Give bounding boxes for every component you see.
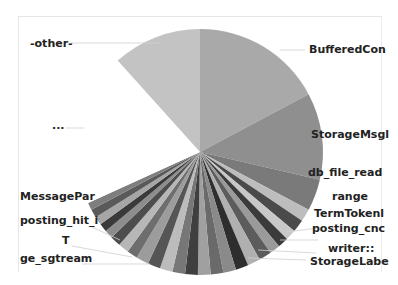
- label-termtokenl: TermTokenl: [314, 207, 384, 220]
- label-messagepar: MessagePar: [20, 190, 95, 203]
- label-ellipsis: ...: [52, 119, 65, 132]
- label-writer: writer::: [328, 242, 374, 255]
- label-other: -other-: [30, 37, 73, 50]
- label-storagemsgl: StorageMsgl: [311, 128, 389, 141]
- label-range: range: [332, 190, 368, 203]
- label-ge-sgtream: ge_sgtream: [20, 252, 92, 265]
- label-db-file-read: db_file_read: [308, 166, 382, 179]
- label-posting-hit: posting_hit_i: [20, 214, 98, 227]
- label-storagelabe: StorageLabe: [310, 255, 389, 268]
- label-bufferedcon: BufferedCon: [309, 43, 386, 56]
- label-t: T: [62, 234, 70, 247]
- label-posting-cnc: posting_cnc: [312, 222, 385, 235]
